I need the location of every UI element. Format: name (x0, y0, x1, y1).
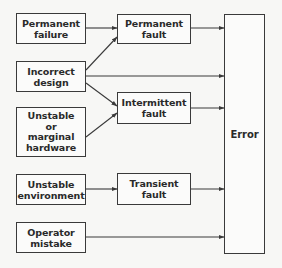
box-line: Transient (129, 178, 178, 189)
box-line: mistake (30, 238, 72, 249)
edge-incorrect-design-to-permanent-fault (86, 37, 117, 70)
cause-permanent-failure: Permanent failure (16, 13, 86, 44)
box-line: environment (17, 190, 84, 201)
box-line: Unstable (28, 111, 75, 122)
edge-incorrect-design-to-intermittent-fault (86, 83, 117, 106)
cause-operator-mistake: Operator mistake (16, 222, 86, 253)
cause-unstable-hardware: Unstable or marginal hardware (16, 107, 86, 157)
fault-intermittent: Intermittent fault (117, 92, 191, 124)
error-label: Error (231, 129, 259, 140)
edge-unstable-hardware-to-intermittent-fault (86, 113, 117, 137)
result-error: Error (224, 14, 265, 254)
box-line: fault (142, 29, 167, 40)
box-line: Permanent (125, 18, 183, 29)
cause-incorrect-design: Incorrect design (16, 61, 86, 92)
box-line: Operator (27, 227, 74, 238)
box-line: fault (142, 189, 167, 200)
box-line: Intermittent (122, 97, 187, 108)
box-line: marginal (28, 132, 75, 143)
box-line: Incorrect (27, 66, 75, 77)
box-line: Permanent (22, 18, 80, 29)
box-line: design (33, 77, 68, 88)
fault-permanent: Permanent fault (117, 14, 191, 44)
fault-transient: Transient fault (117, 173, 191, 205)
box-line: fault (142, 108, 167, 119)
cause-unstable-environment: Unstable environment (16, 174, 86, 205)
box-line: Unstable (28, 179, 75, 190)
box-line: failure (34, 29, 68, 40)
box-line: hardware (26, 143, 76, 154)
